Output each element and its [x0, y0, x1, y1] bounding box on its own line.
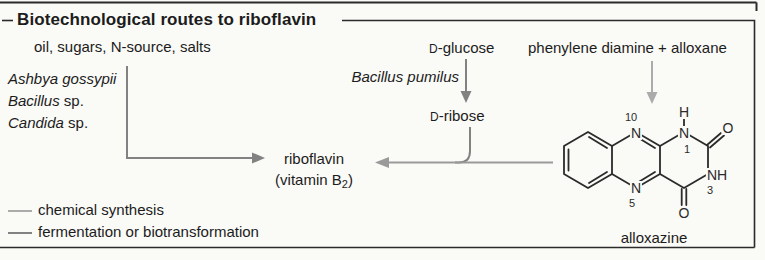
- atom-number-5: 5: [629, 198, 635, 209]
- chemical-reactants-label: phenylene diamine + alloxane: [528, 39, 727, 56]
- organism-name: Bacillus: [8, 92, 60, 109]
- intermediate-d-ribose: D-ribose: [430, 107, 502, 125]
- smallcap-d: D: [429, 42, 438, 56]
- atom-n1-h: H: [678, 105, 690, 119]
- vitamin-close: ): [348, 171, 353, 188]
- c2-carbonyl-bond: [707, 133, 724, 148]
- atom-n3-h: NH: [706, 168, 728, 182]
- chemical-arrow-alloxane: [647, 61, 658, 104]
- benzene-double-bonds: [569, 137, 608, 183]
- atom-number-10: 10: [625, 112, 637, 123]
- benzene-ring: [564, 132, 612, 188]
- product-riboflavin: riboflavin: [264, 150, 364, 167]
- arrowhead-down-icon: [647, 92, 658, 104]
- alloxazine-structure: [564, 119, 724, 206]
- organism-suffix: sp.: [60, 92, 84, 109]
- atom-n1: N: [678, 126, 690, 140]
- legend-swatch-fermentation: [8, 232, 32, 234]
- legend-label-fermentation: fermentation or biotransformation: [38, 223, 259, 240]
- vitamin-open: (vitamin B: [275, 171, 342, 188]
- fermentation-line-ribose-join: [455, 127, 470, 163]
- smallcap-d: D: [430, 110, 439, 124]
- c4-carbonyl-bond: [682, 189, 687, 205]
- intermediate-rest: -ribose: [439, 107, 485, 124]
- alloxazine-label: alloxazine: [604, 229, 704, 246]
- figure-title: Biotechnological routes to riboflavin: [17, 10, 316, 30]
- arrowhead-down-icon: [461, 91, 472, 103]
- legend-label-chemical: chemical synthesis: [38, 201, 164, 218]
- product-vitamin-b2: (vitamin B2): [257, 171, 371, 191]
- atom-n10: N: [630, 126, 642, 140]
- substrate-d-glucose: D-glucose: [429, 39, 494, 57]
- atom-number-3: 3: [707, 185, 713, 196]
- fermentation-arrow-organisms: [126, 66, 265, 164]
- pyrazine-double-bonds: [637, 137, 655, 183]
- atom-n5: N: [630, 181, 642, 195]
- arrowhead-left-icon: [375, 157, 389, 168]
- merged-arrow-to-riboflavin: [375, 157, 553, 168]
- organism-name: Ashbya gossypii: [8, 70, 116, 87]
- organism-bacillus: Bacillus sp.: [8, 92, 84, 109]
- substrate-rest: -glucose: [438, 39, 495, 56]
- organism-bacillus-pumilus: Bacillus pumilus: [345, 68, 459, 85]
- legend-swatch-chemical: [8, 210, 32, 212]
- figure-biotech-routes-riboflavin: Biotechnological routes to riboflavin oi…: [0, 0, 765, 260]
- atom-o-top: O: [722, 121, 735, 135]
- fermentation-arrow-glucose: [461, 59, 472, 103]
- organism-candida: Candida sp.: [8, 114, 88, 131]
- organism-suffix: sp.: [64, 114, 88, 131]
- feedstock-label: oil, sugars, N-source, salts: [34, 38, 211, 55]
- atom-o-bottom: O: [678, 206, 691, 220]
- organism-ashbya: Ashbya gossypii: [8, 70, 116, 87]
- organism-name: Candida: [8, 114, 64, 131]
- atom-number-1: 1: [684, 144, 690, 155]
